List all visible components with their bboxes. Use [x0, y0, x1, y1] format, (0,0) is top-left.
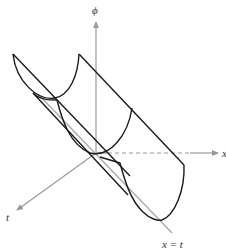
surface-front-curve [100, 157, 184, 220]
surface-back-curve [13, 54, 79, 98]
x-axis-label: x [221, 147, 226, 159]
diagram-canvas: ϕ x t x = t [0, 0, 226, 251]
surface-inner-rim [33, 93, 128, 195]
surface-left-rim [13, 54, 130, 176]
surface-mid-section [57, 100, 132, 154]
t-axis-label: t [6, 211, 10, 223]
t-axis [17, 153, 96, 210]
line-x-equals-t-label: x = t [161, 238, 184, 250]
phi-axis-label: ϕ [92, 4, 98, 16]
line-x-equals-t [38, 94, 172, 233]
